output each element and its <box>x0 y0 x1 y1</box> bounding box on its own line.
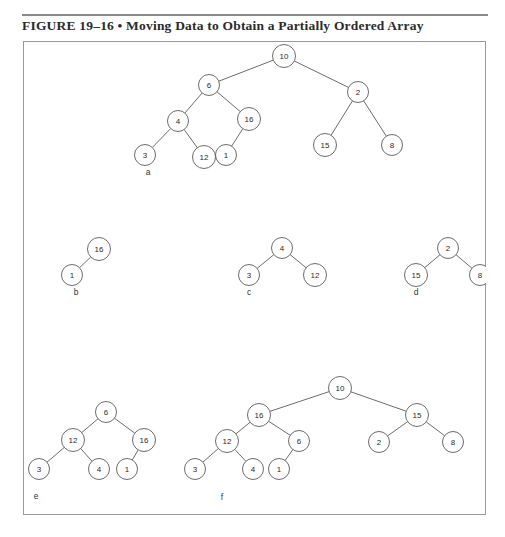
tree-edge <box>235 449 246 461</box>
tree-edge <box>364 101 387 136</box>
tree-node: 6 <box>289 431 310 452</box>
tree-node-value: 4 <box>176 117 181 126</box>
tree-edge <box>114 418 134 433</box>
tree-edge <box>185 93 202 113</box>
tree-edge <box>290 255 306 268</box>
tree-node-value: 12 <box>311 271 320 280</box>
tree-node: 10 <box>273 45 296 68</box>
tree-node: 16 <box>248 404 271 427</box>
tree-edge <box>285 450 293 461</box>
tree-node: 1 <box>62 265 83 286</box>
tree-node-value: 6 <box>104 408 109 417</box>
tree-node-value: 4 <box>251 465 256 474</box>
tree-node: 12 <box>304 264 327 287</box>
tree-node: 12 <box>216 430 239 453</box>
tree-node-value: 1 <box>277 465 282 474</box>
tree-node: 3 <box>29 459 50 480</box>
tree-node-value: 1 <box>70 271 75 280</box>
tree-node: 15 <box>405 264 428 287</box>
tree-node-value: 1 <box>224 151 229 160</box>
tree-node: 4 <box>243 459 264 480</box>
tree-node: 1 <box>117 459 138 480</box>
tree-node: 3 <box>185 459 206 480</box>
tree-node: 4 <box>168 111 189 132</box>
tree-edge <box>257 255 274 269</box>
tree-node-value: 12 <box>69 436 78 445</box>
tree-edge <box>203 449 218 463</box>
tree-edge <box>388 422 408 436</box>
tree-node: 4 <box>272 238 293 259</box>
tree-node-value: 16 <box>255 411 264 420</box>
tree-node-value: 3 <box>247 271 252 280</box>
tree-node: 3 <box>239 265 260 286</box>
tree-node: 12 <box>193 146 216 169</box>
tree-node: 3 <box>135 145 156 166</box>
tree-node-value: 16 <box>140 436 149 445</box>
panel-label-e: e <box>34 491 39 501</box>
tree-edge <box>351 392 406 411</box>
tree-node: 10 <box>329 377 352 400</box>
tree-node: 1 <box>269 459 290 480</box>
tree-edge <box>219 60 273 81</box>
tree-node-value: 6 <box>297 437 302 446</box>
tree-node: 6 <box>199 75 220 96</box>
tree-node: 8 <box>470 265 487 286</box>
tree-node-value: 8 <box>451 438 456 447</box>
tree-node: 2 <box>348 82 369 103</box>
tree-edge <box>425 255 440 268</box>
tree-node-value: 8 <box>478 271 483 280</box>
tree-node-value: 2 <box>356 88 361 97</box>
tree-edge <box>232 129 243 146</box>
tree-edge <box>456 255 472 268</box>
panel-label-c: c <box>247 287 252 297</box>
tree-node: 15 <box>406 404 429 427</box>
tree-node-value: 15 <box>321 141 330 150</box>
tree-node: 1 <box>216 145 237 166</box>
tree-node-value: 3 <box>193 465 198 474</box>
figure-caption: FIGURE 19–16 • Moving Data to Obtain a P… <box>22 16 492 36</box>
tree-node-value: 10 <box>280 52 289 61</box>
tree-node: 16 <box>88 238 111 261</box>
panel-label-b: b <box>74 287 79 297</box>
tree-nodes-layer: 1062416158312116143122158612163411016151… <box>29 45 487 480</box>
panel-label-a: a <box>146 167 151 177</box>
tree-node-value: 12 <box>223 437 232 446</box>
tree-node-value: 8 <box>390 141 395 150</box>
tree-node-value: 2 <box>377 438 382 447</box>
tree-node-value: 16 <box>245 115 254 124</box>
tree-node: 16 <box>133 429 156 452</box>
tree-edge <box>426 422 444 436</box>
panel-label-f: f <box>221 492 224 502</box>
tree-node-value: 6 <box>207 81 212 90</box>
tree-node: 2 <box>369 432 390 453</box>
tree-node-value: 2 <box>446 244 451 253</box>
tree-node-value: 12 <box>200 153 209 162</box>
tree-edge <box>294 61 348 87</box>
tree-node-value: 15 <box>412 271 421 280</box>
tree-node-value: 4 <box>97 465 102 474</box>
tree-node: 15 <box>314 134 337 157</box>
tree-edge <box>269 421 291 435</box>
tree-node-value: 3 <box>143 151 148 160</box>
tree-edge <box>217 92 240 112</box>
tree-node: 16 <box>238 108 261 131</box>
figure-page: FIGURE 19–16 • Moving Data to Obtain a P… <box>0 0 505 537</box>
tree-edge <box>152 129 170 148</box>
tree-edge <box>270 392 329 412</box>
tree-edge <box>331 101 352 135</box>
tree-edge <box>236 422 250 434</box>
tree-node: 8 <box>382 135 403 156</box>
binary-trees-diagram: 1062416158312116143122158612163411016151… <box>23 41 486 515</box>
panel-label-d: d <box>414 287 419 297</box>
tree-node: 8 <box>443 432 464 453</box>
tree-edge <box>184 130 197 148</box>
tree-edge <box>81 449 92 462</box>
tree-node: 4 <box>89 459 110 480</box>
tree-node-value: 10 <box>336 384 345 393</box>
tree-node-value: 1 <box>125 465 130 474</box>
tree-node: 6 <box>96 402 117 423</box>
tree-edge <box>82 419 98 433</box>
tree-node-value: 16 <box>95 245 104 254</box>
tree-edge <box>80 257 91 268</box>
tree-node-value: 4 <box>280 244 285 253</box>
